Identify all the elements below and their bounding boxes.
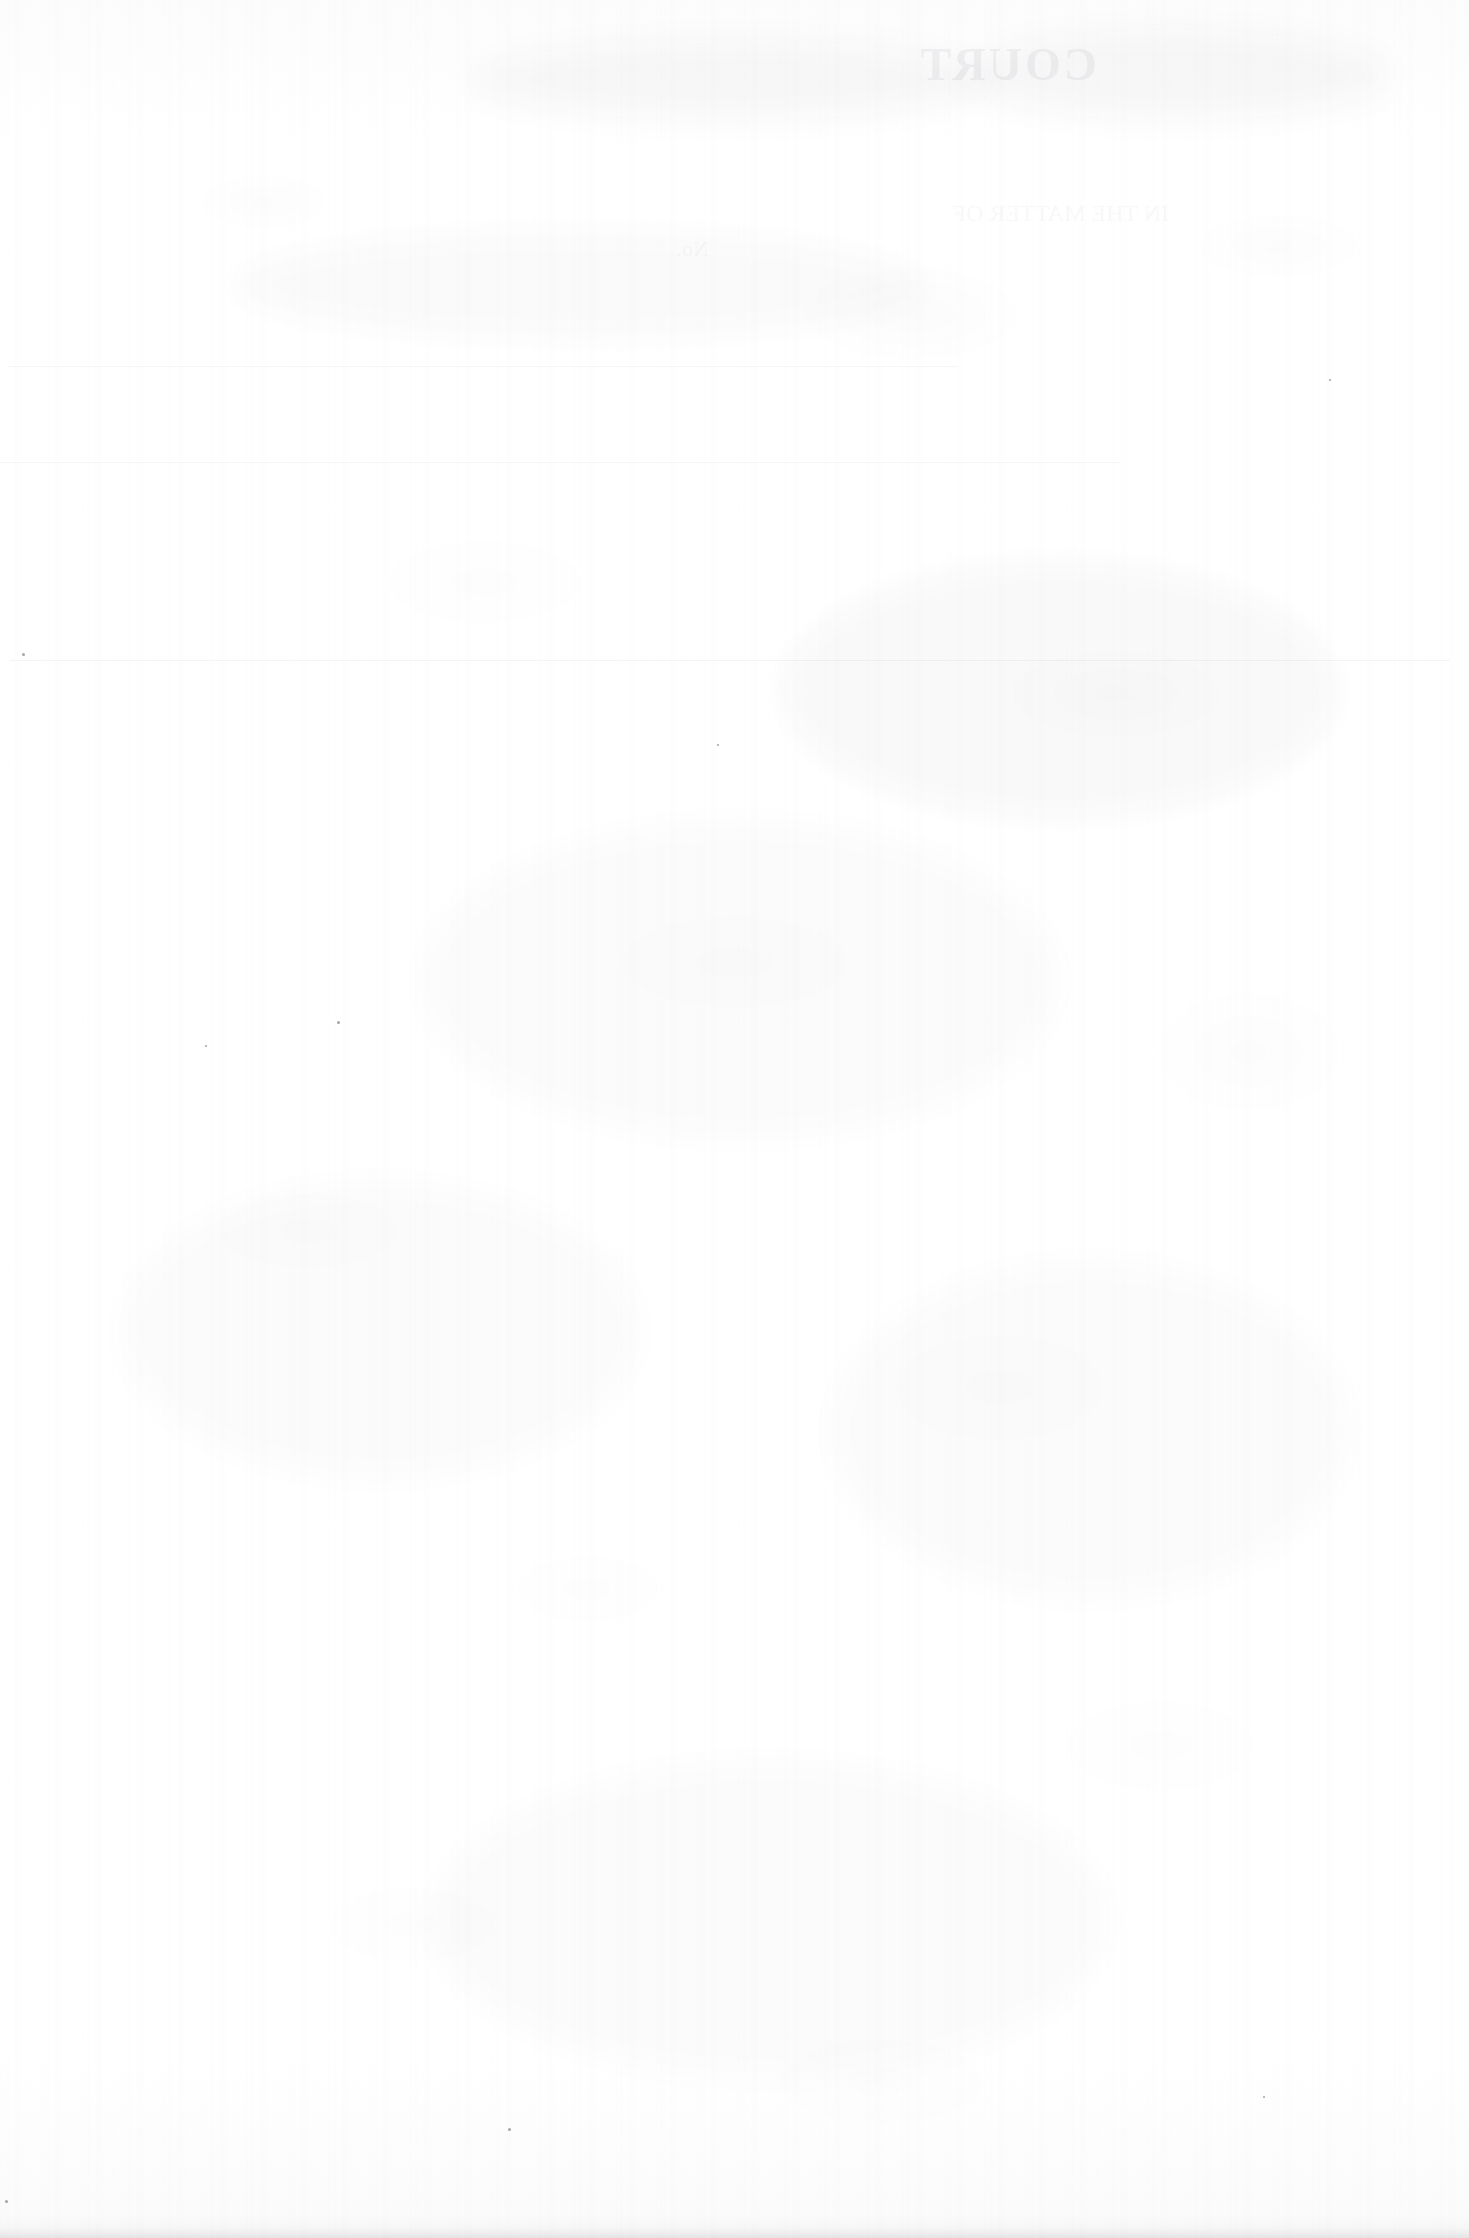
bleed-through-subheading-0: IN THE MATTER OF <box>953 200 1169 227</box>
sheet-bottom-edge-shadow <box>0 2228 1469 2238</box>
scanned-page: COURT IN THE MATTER OF No. Blank page (r… <box>0 0 1469 2238</box>
ink-speck <box>1329 379 1331 381</box>
ink-speck <box>22 653 25 656</box>
ink-speck <box>717 744 719 746</box>
ink-speck <box>337 1021 340 1024</box>
ink-speck <box>1263 2096 1265 2098</box>
bleed-through-heading: COURT <box>917 38 1097 91</box>
bleed-through-subheading-1: No. <box>677 236 709 262</box>
bleed-through-layer: COURT IN THE MATTER OF No. <box>0 0 1469 2238</box>
ink-speck <box>205 1045 207 1047</box>
ink-speck <box>5 2200 8 2203</box>
ink-speck <box>508 2128 511 2131</box>
